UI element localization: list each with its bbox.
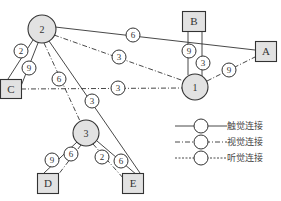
svg-text:1: 1 (193, 82, 198, 93)
link-weight: 9 (222, 63, 236, 77)
link-2-A-touch (55, 27, 255, 50)
link-weight: 3 (111, 81, 125, 95)
svg-text:E: E (130, 177, 137, 189)
touch-connection-symbol-icon (175, 118, 227, 134)
hub-node-1: 1 (182, 74, 208, 100)
legend-item-visual: 视觉连接 (175, 134, 275, 150)
svg-text:2: 2 (100, 152, 105, 162)
svg-text:9: 9 (27, 63, 32, 73)
legend: 触觉连接 视觉连接 听觉连接 (175, 118, 275, 166)
link-weight: 3 (196, 56, 210, 70)
svg-text:6: 6 (131, 30, 136, 40)
svg-text:6: 6 (119, 156, 124, 166)
svg-text:9: 9 (187, 46, 192, 56)
link-weight: 6 (52, 72, 66, 86)
link-weight: 9 (22, 61, 36, 75)
svg-text:2: 2 (19, 46, 24, 56)
svg-text:B: B (190, 15, 197, 27)
link-weight: 6 (114, 154, 128, 168)
svg-text:3: 3 (116, 83, 121, 93)
network-diagram: 213 BACDE 63296339399626 (0, 0, 281, 201)
svg-text:C: C (7, 83, 14, 95)
hub-node-3: 3 (73, 120, 99, 146)
terminal-node-C: C (1, 80, 22, 99)
svg-text:D: D (44, 177, 52, 189)
link-C-1-visual (21, 88, 182, 89)
terminal-node-B: B (183, 12, 206, 32)
legend-label-auditory: 听觉连接 (227, 152, 263, 164)
svg-text:2: 2 (40, 24, 45, 35)
svg-text:9: 9 (227, 65, 232, 75)
svg-text:3: 3 (201, 58, 206, 68)
hub-node-2: 2 (28, 15, 56, 43)
svg-text:3: 3 (90, 96, 95, 106)
svg-text:3: 3 (117, 52, 122, 62)
visual-connection-symbol-icon (175, 134, 227, 150)
terminal-node-E: E (123, 174, 144, 194)
link-weight: 6 (64, 147, 78, 161)
svg-text:A: A (262, 45, 270, 57)
link-weight: 9 (45, 153, 59, 167)
svg-text:9: 9 (50, 155, 55, 165)
legend-item-auditory: 听觉连接 (175, 150, 275, 166)
terminal-node-A: A (256, 42, 277, 62)
link-weight: 9 (182, 44, 196, 58)
link-weight: 3 (112, 50, 126, 64)
link-weight: 2 (14, 44, 28, 58)
terminal-node-D: D (38, 174, 59, 194)
link-weight: 2 (95, 150, 109, 164)
legend-label-touch: 触觉连接 (227, 120, 263, 132)
svg-text:6: 6 (57, 74, 62, 84)
auditory-connection-symbol-icon (175, 150, 227, 166)
link-weight: 6 (126, 28, 140, 42)
legend-item-touch: 触觉连接 (175, 118, 275, 134)
svg-text:3: 3 (84, 128, 89, 139)
link-weight: 3 (85, 94, 99, 108)
legend-label-visual: 视觉连接 (227, 136, 263, 148)
svg-text:6: 6 (69, 149, 74, 159)
